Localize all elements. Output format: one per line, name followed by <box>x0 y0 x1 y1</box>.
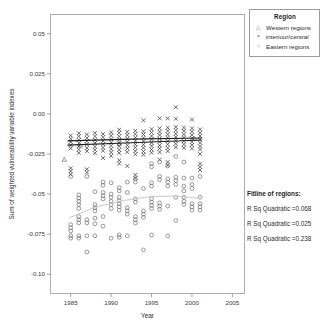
data-point-eastern <box>125 180 129 184</box>
legend-label-western: Western regions <box>266 23 311 32</box>
x-tick-label: 1990 <box>104 299 118 306</box>
data-point-interior <box>85 136 89 140</box>
y-tick-label: -0.05 <box>31 190 46 197</box>
fitline-title: Fitline of regions: <box>247 190 325 197</box>
data-point-interior <box>158 126 162 130</box>
data-point-interior <box>101 149 105 153</box>
data-point-interior <box>77 138 81 142</box>
legend-label-interior: interiour/central <box>266 32 309 41</box>
data-point-interior <box>190 133 194 137</box>
x-marker-icon: × <box>254 32 263 41</box>
data-point-interior <box>85 171 89 175</box>
data-point-interior <box>69 169 73 173</box>
data-point-eastern <box>109 181 113 185</box>
data-point-interior <box>158 143 162 147</box>
data-point-interior <box>93 145 97 149</box>
data-point-interior <box>93 148 97 152</box>
data-point-interior <box>101 146 105 150</box>
y-tick-label: 0.00 <box>33 110 46 117</box>
y-tick-label: 0.025 <box>30 70 46 77</box>
data-point-interior <box>158 147 162 151</box>
data-point-interior <box>125 133 129 137</box>
data-point-interior <box>125 147 129 151</box>
data-point-interior <box>150 148 154 152</box>
data-point-interior <box>166 160 170 164</box>
data-point-interior <box>174 132 178 136</box>
fitline-rsq-interior: R Sq Quadratic =0.025 <box>247 220 325 227</box>
data-point-interior <box>93 134 97 138</box>
data-point-interior <box>142 133 146 137</box>
data-point-eastern <box>125 234 129 238</box>
data-point-interior <box>77 151 81 155</box>
data-point-interior <box>190 147 194 151</box>
data-point-eastern <box>166 204 170 208</box>
data-point-eastern <box>69 175 73 179</box>
data-point-interior <box>142 129 146 133</box>
data-point-interior <box>117 148 121 152</box>
data-point-interior <box>133 149 137 153</box>
fitline-rsq-eastern: R Sq Quadratic =0.238 <box>247 235 325 242</box>
data-point-interior <box>85 146 89 150</box>
data-point-eastern <box>93 234 97 238</box>
data-point-interior <box>174 105 178 109</box>
data-point-interior <box>109 130 113 134</box>
data-point-eastern <box>142 248 146 252</box>
data-point-eastern <box>182 189 186 193</box>
data-point-western <box>62 157 66 161</box>
data-point-eastern <box>93 222 97 226</box>
y-tick-label: -0.075 <box>27 230 45 237</box>
data-point-interior <box>133 173 137 177</box>
data-point-interior <box>174 117 178 121</box>
data-point-interior <box>198 141 202 145</box>
data-point-interior <box>182 133 186 137</box>
data-point-interior <box>117 144 121 148</box>
data-point-eastern <box>150 233 154 237</box>
data-point-interior <box>142 150 146 154</box>
data-point-interior <box>158 130 162 134</box>
data-point-interior <box>142 143 146 147</box>
y-tick-label: -0.10 <box>31 270 46 277</box>
data-point-interior <box>77 131 81 135</box>
data-point-eastern <box>109 207 113 211</box>
data-point-interior <box>198 144 202 148</box>
data-point-eastern <box>85 250 89 254</box>
data-point-eastern <box>158 160 162 164</box>
data-point-eastern <box>166 234 170 238</box>
data-point-interior <box>150 127 154 131</box>
data-point-interior <box>182 142 186 146</box>
data-point-eastern <box>125 191 129 195</box>
legend-item-interior: × interiour/central <box>254 32 316 42</box>
data-point-eastern <box>190 176 194 180</box>
data-point-interior <box>117 151 121 155</box>
data-point-interior <box>101 135 105 139</box>
data-point-interior <box>198 127 202 131</box>
data-point-interior <box>166 129 170 133</box>
data-point-interior <box>69 146 73 150</box>
data-point-eastern <box>174 183 178 187</box>
data-point-eastern <box>77 207 81 211</box>
legend-title: Region <box>254 13 316 20</box>
data-point-interior <box>101 156 105 160</box>
data-point-interior <box>117 162 121 166</box>
data-point-interior <box>198 168 202 172</box>
data-point-interior <box>174 142 178 146</box>
data-point-interior <box>166 149 170 153</box>
data-point-interior <box>109 150 113 154</box>
x-tick-label: 1995 <box>145 299 159 306</box>
data-points-group <box>62 105 202 254</box>
data-point-interior <box>166 146 170 150</box>
data-point-interior <box>174 128 178 132</box>
x-tick-label: 2005 <box>225 299 239 306</box>
legend-label-eastern: Eastern regions <box>266 42 309 51</box>
data-point-interior <box>166 142 170 146</box>
data-point-eastern <box>174 155 178 159</box>
data-point-interior <box>85 167 89 171</box>
y-tick-label: 0.05 <box>33 30 46 37</box>
data-point-interior <box>117 159 121 163</box>
data-point-interior <box>158 133 162 137</box>
legend: Region △ Western regions × interiour/cen… <box>249 9 320 57</box>
data-point-interior <box>174 145 178 149</box>
data-point-eastern <box>182 176 186 180</box>
legend-item-eastern: ○ Eastern regions <box>254 42 316 52</box>
chart-page: 198519901995200020050.050.0250.00-0.025-… <box>0 0 325 329</box>
